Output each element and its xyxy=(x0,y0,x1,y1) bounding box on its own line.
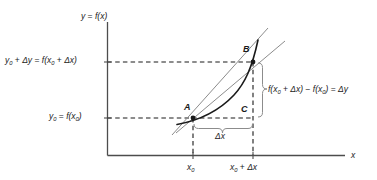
guide-lines-group xyxy=(108,62,254,155)
y-tick-label-upper: y0 + Δy = f(x0 + Δx) y0 + Δy = f(x0 + Δx… xyxy=(5,56,77,65)
x-tick-label-x0-plus-dx: x0 + Δx x0 + Δx xyxy=(230,163,257,172)
x-axis-label: x xyxy=(351,151,355,160)
point-label-A: A xyxy=(184,103,191,112)
point-A-marker xyxy=(191,116,196,121)
axis-ticks-group xyxy=(104,62,253,159)
x-tick-label-x0: x0 x0 xyxy=(187,163,194,172)
delta-y-brace xyxy=(258,63,267,117)
tangent-line xyxy=(172,28,268,135)
y-axis-label: y = f(x) y = f(x) xyxy=(81,12,107,21)
delta-x-annotation: Δx Δx xyxy=(215,132,225,141)
derivative-diagram: y = f(x) y = f(x) y0 + Δy = f(x0 + Δx) y… xyxy=(0,0,377,180)
y-tick-label-lower: y0 = f(x0) y0 = f(x0) xyxy=(49,112,82,121)
point-B-marker xyxy=(251,60,256,65)
point-label-C: C xyxy=(241,105,248,114)
point-label-B: B xyxy=(243,45,250,54)
delta-y-annotation: f(x0 + Δx) − f(x0) = Δy f(x0 + Δx) − f(x… xyxy=(268,85,348,94)
